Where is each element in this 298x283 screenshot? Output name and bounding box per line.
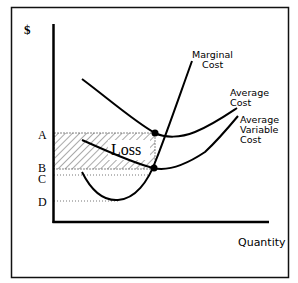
mc-label-line2: Cost <box>202 59 223 70</box>
y-axis-label: $ <box>24 22 31 37</box>
cost-curves-diagram: $ Quantity A B C D Loss Marginal Cost Av… <box>0 0 298 283</box>
marginal-cost-curve <box>82 61 192 200</box>
point-ac-at-quantity <box>152 130 159 137</box>
ac-label-line2: Cost <box>230 97 251 108</box>
loss-label: Loss <box>111 141 141 158</box>
average-cost-curve <box>82 79 237 137</box>
tick-label-c: C <box>38 172 46 186</box>
point-mc-avc-intersection <box>151 165 158 172</box>
x-axis-label: Quantity <box>238 236 286 249</box>
tick-label-a: A <box>38 128 47 142</box>
avc-label-line3: Cost <box>240 134 261 145</box>
tick-label-d: D <box>38 195 47 209</box>
